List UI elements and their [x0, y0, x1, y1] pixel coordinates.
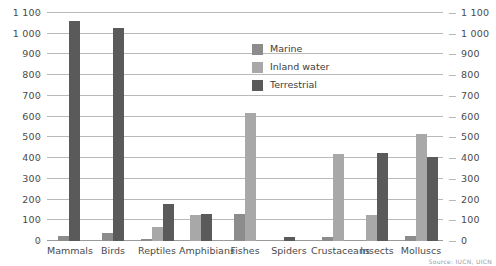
- bar-marine: [141, 239, 152, 241]
- y-axis-tick-left: [35, 34, 41, 35]
- y-axis-tick-right: [449, 241, 456, 242]
- bar-group: [91, 13, 135, 241]
- bar-marine: [234, 214, 245, 241]
- x-axis-label: Molluscs: [399, 245, 443, 257]
- legend-swatch-icon: [252, 80, 263, 91]
- bar-inland: [366, 215, 377, 241]
- y-axis-tick-right: [449, 179, 456, 180]
- bar-group: [355, 13, 399, 241]
- x-axis-label: Crustaceans: [311, 245, 355, 257]
- y-axis-tick-right: [449, 137, 456, 138]
- y-axis-tick-label-right: 900: [461, 49, 480, 59]
- y-axis-right: 01002003004005006007008009001 0001 100: [449, 13, 495, 241]
- y-axis-tick-right: [449, 200, 456, 201]
- y-axis-tick-left: [35, 54, 41, 55]
- y-axis-tick-right: [449, 75, 456, 76]
- y-axis-tick-right: [449, 54, 456, 55]
- y-axis-tick-left: [35, 220, 41, 221]
- bar-inland: [416, 134, 427, 241]
- chart-legend: MarineInland waterTerrestrial: [252, 41, 329, 95]
- y-axis-left: 01002003004005006007008009001 0001 100: [0, 13, 41, 241]
- bar-marine: [405, 236, 416, 241]
- bar-terrestrial: [377, 153, 388, 241]
- bar-inland: [333, 154, 344, 241]
- bar-terrestrial: [284, 237, 295, 241]
- y-axis-tick-label-right: 500: [461, 132, 480, 142]
- y-axis-tick-label-right: 400: [461, 153, 480, 163]
- legend-label: Terrestrial: [270, 80, 317, 90]
- bar-inland: [152, 227, 163, 242]
- legend-item: Inland water: [252, 59, 329, 75]
- bar-group: [179, 13, 223, 241]
- y-axis-tick-left: [35, 200, 41, 201]
- x-axis-label: Spiders: [267, 245, 311, 257]
- y-axis-tick-left: [35, 137, 41, 138]
- y-axis-tick-left: [35, 117, 41, 118]
- bar-terrestrial: [69, 21, 80, 241]
- y-axis-tick-left: [35, 96, 41, 97]
- bar-group: [399, 13, 443, 241]
- bar-terrestrial: [163, 204, 174, 241]
- bar-group: [47, 13, 91, 241]
- legend-label: Inland water: [270, 62, 329, 72]
- y-axis-tick-right: [449, 34, 456, 35]
- y-axis-tick-right: [449, 158, 456, 159]
- bars-layer: [47, 13, 443, 241]
- y-axis-tick-label-right: 1 100: [461, 8, 489, 18]
- y-axis-tick-left: [35, 75, 41, 76]
- bar-marine: [322, 237, 333, 241]
- x-axis-label: Mammals: [47, 245, 91, 257]
- legend-item: Marine: [252, 41, 329, 57]
- y-axis-tick-left: [35, 179, 41, 180]
- bar-inland: [190, 215, 201, 241]
- y-axis-tick-label-right: 1 000: [461, 29, 489, 39]
- y-axis-tick-label-right: 300: [461, 174, 480, 184]
- y-axis-tick-label-right: 800: [461, 70, 480, 80]
- y-axis-tick-right: [449, 220, 456, 221]
- y-axis-tick-right: [449, 117, 456, 118]
- legend-item: Terrestrial: [252, 77, 329, 93]
- x-axis-label: Reptiles: [135, 245, 179, 257]
- x-axis-categories: MammalsBirdsReptilesAmphibiansFishesSpid…: [47, 245, 443, 261]
- y-axis-tick-left: [35, 13, 41, 14]
- bar-marine: [58, 236, 69, 241]
- y-axis-tick-label-right: 700: [461, 91, 480, 101]
- legend-label: Marine: [270, 44, 302, 54]
- y-axis-tick-label-right: 0: [461, 236, 467, 246]
- bar-chart: 01002003004005006007008009001 0001 100 0…: [0, 0, 496, 266]
- bar-group: [135, 13, 179, 241]
- x-axis-label: Birds: [91, 245, 135, 257]
- y-axis-tick-left: [35, 158, 41, 159]
- bar-marine: [102, 233, 113, 241]
- y-axis-tick-label-right: 200: [461, 195, 480, 205]
- x-axis-label: Insects: [355, 245, 399, 257]
- y-axis-tick-label-right: 600: [461, 112, 480, 122]
- y-axis-tick-right: [449, 13, 456, 14]
- y-axis-tick-label-right: 100: [461, 215, 480, 225]
- plot-area: [47, 13, 443, 241]
- x-axis-label: Amphibians: [179, 245, 223, 257]
- legend-swatch-icon: [252, 44, 263, 55]
- bar-terrestrial: [427, 157, 438, 241]
- x-axis-label: Fishes: [223, 245, 267, 257]
- y-axis-tick-right: [449, 96, 456, 97]
- bar-inland: [245, 113, 256, 242]
- legend-swatch-icon: [252, 62, 263, 73]
- bar-terrestrial: [113, 28, 124, 241]
- bar-terrestrial: [201, 214, 212, 241]
- y-axis-tick-left: [35, 241, 41, 242]
